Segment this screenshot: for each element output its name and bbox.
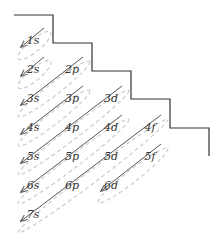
aufbau-diagram: 1s2s2p3s3p3d4s4p4d4f5s5p5d5f6s6p6d7s: [0, 0, 223, 244]
staircase-outline: [14, 15, 209, 156]
orbital-label-5p: 5p: [65, 150, 79, 163]
orbital-label-5f: 5f: [144, 150, 157, 163]
orbital-label-6d: 6d: [104, 179, 118, 192]
orbital-label-5s: 5s: [27, 150, 40, 163]
orbital-label-1s: 1s: [27, 34, 40, 47]
orbital-label-6p: 6p: [65, 179, 79, 192]
orbital-label-4p: 4p: [64, 121, 79, 134]
orbital-label-2p: 2p: [64, 63, 79, 76]
orbital-label-6s: 6s: [27, 179, 40, 192]
orbital-label-2s: 2s: [26, 63, 40, 76]
orbital-label-3d: 3d: [104, 92, 118, 105]
orbital-label-4f: 4f: [143, 121, 157, 134]
orbital-label-3p: 3p: [65, 92, 79, 105]
orbital-label-4d: 4d: [103, 121, 118, 134]
orbital-label-3s: 3s: [27, 92, 40, 105]
arrow-icon: [21, 115, 161, 221]
orbital-label-4s: 4s: [26, 121, 40, 134]
orbital-label-7s: 7s: [27, 208, 40, 221]
orbital-label-5d: 5d: [104, 150, 118, 163]
